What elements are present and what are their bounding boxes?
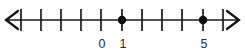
tick-label-one: 1 — [120, 37, 127, 51]
plotted-point-one — [118, 16, 126, 24]
number-line-svg: 0 1 5 — [0, 0, 245, 52]
tick-label-group: 0 1 5 — [99, 37, 208, 51]
number-line-figure: 0 1 5 — [0, 0, 245, 52]
tick-label-zero: 0 — [99, 37, 106, 51]
plotted-point-five — [199, 16, 207, 24]
tick-label-five: 5 — [201, 37, 208, 51]
